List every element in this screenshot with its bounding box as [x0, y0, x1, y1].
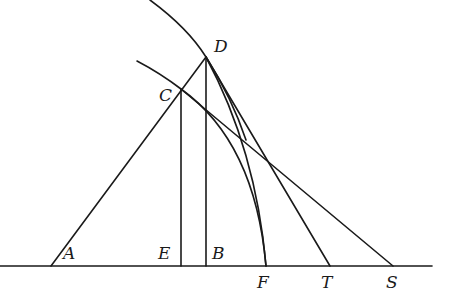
- arc-D-F: [206, 57, 266, 266]
- label-T: T: [321, 274, 332, 291]
- outer-arc: [150, 0, 246, 140]
- label-F: F: [257, 274, 269, 291]
- line-C-S: [181, 89, 393, 266]
- label-C: C: [159, 87, 172, 104]
- label-B: B: [212, 245, 225, 262]
- inner-arc: [137, 61, 266, 266]
- line-A-D: [51, 57, 206, 266]
- label-D: D: [214, 38, 228, 55]
- label-A: A: [63, 245, 75, 262]
- label-S: S: [386, 274, 398, 291]
- label-E: E: [158, 245, 170, 262]
